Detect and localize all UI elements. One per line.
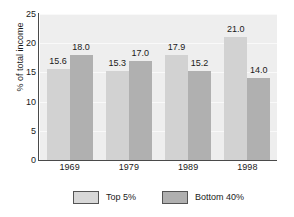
x-axis-line <box>38 160 277 161</box>
chart-legend: Top 5%Bottom 40% <box>40 186 277 208</box>
legend-swatch <box>73 191 99 204</box>
bar-value-label: 21.0 <box>220 25 251 34</box>
y-tick-label: 10 <box>12 98 36 107</box>
gridline <box>40 14 277 15</box>
x-tick-label: 1998 <box>218 163 277 172</box>
bar <box>129 61 152 160</box>
y-tick-label: 5 <box>12 127 36 136</box>
bar <box>70 55 93 160</box>
bar-value-label: 15.6 <box>43 57 74 66</box>
bar-value-label: 14.0 <box>243 66 274 75</box>
bar <box>106 71 129 160</box>
bar <box>224 37 247 160</box>
plot-area <box>40 14 277 160</box>
bar <box>188 71 211 160</box>
bar <box>165 55 188 160</box>
legend-label: Top 5% <box>106 192 136 202</box>
y-tick-label: 20 <box>12 39 36 48</box>
legend-swatch <box>162 191 188 204</box>
bar-value-label: 17.9 <box>161 43 192 52</box>
y-axis-line <box>38 13 39 161</box>
bar <box>247 78 270 160</box>
y-tick-label: 15 <box>12 68 36 77</box>
legend-entry: Bottom 40% <box>162 191 244 204</box>
x-tick-label: 1989 <box>159 163 218 172</box>
legend-label: Bottom 40% <box>195 192 244 202</box>
y-tick-label: 25 <box>12 10 36 19</box>
legend-entry: Top 5% <box>73 191 136 204</box>
bar-value-label: 17.0 <box>125 49 156 58</box>
bar-value-label: 15.3 <box>102 59 133 68</box>
x-tick-label: 1979 <box>99 163 158 172</box>
bar <box>47 69 70 160</box>
y-tick-label: 0 <box>12 156 36 165</box>
bar-value-label: 18.0 <box>66 43 97 52</box>
bar-value-label: 15.2 <box>184 59 215 68</box>
bar-chart: % of total income 0510152025 Top 5%Botto… <box>0 0 294 217</box>
y-axis-tick-labels: 0510152025 <box>12 0 36 217</box>
x-tick-label: 1969 <box>40 163 99 172</box>
